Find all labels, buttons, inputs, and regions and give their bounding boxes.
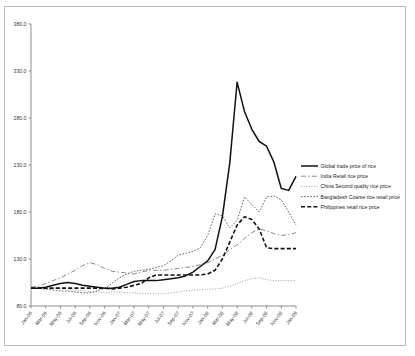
x-tick-label: Jan-06 bbox=[19, 310, 33, 326]
y-tick-label: 330.0 bbox=[14, 68, 27, 74]
y-tick-label: 280.0 bbox=[14, 115, 27, 121]
data-series-layer bbox=[31, 82, 296, 294]
chart-container: 80.0130.0180.0230.0280.0330.0380.0 Jan-0… bbox=[0, 0, 415, 356]
x-tick-label: Nov-07 bbox=[181, 310, 196, 327]
x-tick-label: Jul-07 bbox=[153, 310, 166, 325]
series-india-retail bbox=[31, 229, 296, 287]
legend-label: Philippines retail rice price bbox=[321, 204, 380, 210]
y-tick-label: 230.0 bbox=[14, 162, 27, 168]
x-tick-label: Sep-06 bbox=[78, 310, 93, 327]
y-axis bbox=[29, 24, 32, 306]
x-tick-label: Nov-06 bbox=[92, 310, 107, 327]
x-tick-label: May-06 bbox=[48, 310, 63, 327]
x-tick-label: Jan-09 bbox=[284, 310, 298, 326]
x-tick-label: Sep-08 bbox=[254, 310, 269, 327]
x-tick-label: May-08 bbox=[224, 310, 239, 327]
legend-label: India Retail rice price bbox=[321, 173, 369, 179]
chart-legend: Global trade price of riceIndia Retail r… bbox=[301, 163, 400, 210]
x-tick-label: Jul-08 bbox=[241, 310, 254, 325]
x-axis-labels: Jan-06Mar-06May-06Jul-06Sep-06Nov-06Jan-… bbox=[19, 310, 298, 327]
x-tick-label: Mar-08 bbox=[210, 310, 225, 326]
y-tick-label: 130.0 bbox=[14, 256, 27, 262]
y-axis-labels: 80.0130.0180.0230.0280.0330.0380.0 bbox=[14, 21, 27, 309]
x-tick-label: Mar-06 bbox=[34, 310, 49, 326]
series-bangladesh-coarse bbox=[31, 196, 296, 293]
legend-item: Global trade price of rice bbox=[301, 163, 376, 169]
x-tick-label: Nov-08 bbox=[269, 310, 284, 327]
x-tick-label: Jan-08 bbox=[196, 310, 210, 326]
legend-item: Philippines retail rice price bbox=[301, 204, 380, 210]
x-tick-label: Jul-06 bbox=[64, 310, 77, 325]
series-philippines-retail bbox=[31, 217, 296, 289]
rice-price-line-chart: 80.0130.0180.0230.0280.0330.0380.0 Jan-0… bbox=[0, 0, 415, 356]
legend-item: China Second quality rice price bbox=[301, 183, 391, 189]
legend-item: India Retail rice price bbox=[301, 173, 368, 179]
legend-label: China Second quality rice price bbox=[321, 183, 391, 189]
legend-label: Global trade price of rice bbox=[321, 163, 377, 169]
legend-label: Bangladesh Coarse rice retail price bbox=[321, 194, 400, 200]
x-axis bbox=[31, 306, 296, 309]
y-tick-label: 180.0 bbox=[14, 209, 27, 215]
series-global-trade-price bbox=[31, 82, 296, 288]
x-tick-label: May-07 bbox=[136, 310, 151, 327]
y-tick-label: 80.0 bbox=[16, 303, 26, 309]
legend-item: Bangladesh Coarse rice retail price bbox=[301, 194, 400, 200]
x-tick-label: Mar-07 bbox=[122, 310, 137, 326]
x-tick-label: Jan-07 bbox=[107, 310, 121, 326]
x-tick-label: Sep-07 bbox=[166, 310, 181, 327]
y-tick-label: 380.0 bbox=[14, 21, 27, 27]
